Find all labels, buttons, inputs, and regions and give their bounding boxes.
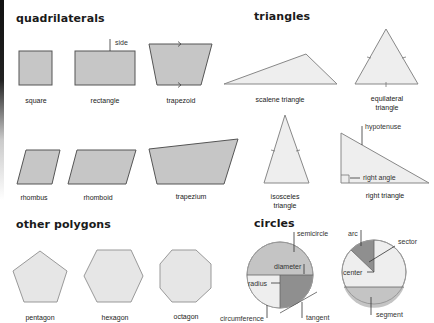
label-rhomboid: rhomboid bbox=[75, 193, 121, 202]
rhomboid-shape bbox=[68, 150, 136, 184]
label-octagon: octagon bbox=[164, 312, 208, 321]
label-equilateral-2: triangle bbox=[362, 103, 412, 112]
geometry-diagram bbox=[0, 0, 434, 323]
label-trapezoid: trapezoid bbox=[158, 96, 204, 105]
annotation-sector: sector bbox=[398, 237, 417, 246]
annotation-radius: radius bbox=[248, 279, 267, 288]
label-hexagon: hexagon bbox=[93, 313, 137, 322]
equilateral-triangle-shape bbox=[355, 29, 418, 84]
annotation-right-angle: right angle bbox=[363, 173, 396, 182]
annotation-side: side bbox=[115, 38, 128, 47]
label-rectangle: rectangle bbox=[80, 96, 130, 105]
circle-diagram-1 bbox=[247, 232, 317, 318]
annotation-circumference: circumference bbox=[220, 314, 264, 323]
label-square: square bbox=[15, 96, 57, 105]
annotation-segment: segment bbox=[376, 310, 403, 319]
label-rhombus: rhombus bbox=[14, 193, 54, 202]
annotation-hypotenuse: hypotenuse bbox=[365, 122, 401, 131]
annotation-arc: arc bbox=[348, 229, 358, 238]
label-isosceles: isosceles bbox=[262, 192, 308, 201]
pentagon-shape bbox=[13, 251, 67, 302]
label-isosceles-2: triangle bbox=[262, 201, 308, 210]
octagon-shape bbox=[160, 250, 211, 302]
annotation-tangent: tangent bbox=[306, 313, 329, 322]
annotation-center: center bbox=[343, 268, 362, 277]
label-equilateral: equilateral bbox=[362, 94, 412, 103]
annotation-diameter: diameter bbox=[274, 262, 301, 271]
label-pentagon: pentagon bbox=[18, 313, 62, 322]
isosceles-triangle-shape bbox=[264, 115, 309, 183]
rhombus-shape bbox=[17, 150, 60, 184]
label-trapezium: trapezium bbox=[168, 192, 214, 201]
trapezoid-shape bbox=[149, 44, 212, 85]
hexagon-shape bbox=[84, 250, 143, 302]
label-right-triangle: right triangle bbox=[355, 191, 415, 200]
annotation-semicircle: semicircle bbox=[297, 229, 328, 238]
scalene-triangle-shape bbox=[224, 54, 337, 84]
label-scalene-triangle: scalene triangle bbox=[245, 95, 315, 104]
square-shape bbox=[19, 51, 52, 85]
rectangle-shape bbox=[75, 51, 135, 85]
trapezium-shape bbox=[149, 139, 238, 184]
